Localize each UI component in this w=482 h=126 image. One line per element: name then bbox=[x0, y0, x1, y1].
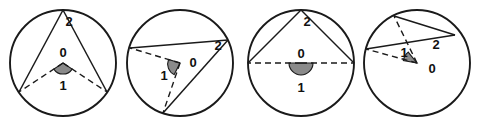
label-center-4: 0 bbox=[428, 61, 435, 76]
circle-diagram-4: 2 0 1 bbox=[356, 0, 482, 126]
label-inscribed-angle-2: 2 bbox=[214, 38, 221, 53]
label-center-2: 0 bbox=[189, 55, 196, 70]
label-central-angle-1: 1 bbox=[59, 78, 66, 93]
label-inscribed-angle-1: 2 bbox=[65, 14, 72, 29]
circle-diagram-2: 2 0 1 bbox=[117, 0, 243, 126]
circle-diagram-3-svg: 2 0 1 bbox=[238, 0, 364, 126]
label-inscribed-angle-4: 2 bbox=[432, 37, 439, 52]
circle-diagram-4-svg: 2 0 1 bbox=[356, 0, 482, 126]
circle-diagram-3: 2 0 1 bbox=[238, 0, 364, 126]
label-center-3: 0 bbox=[297, 46, 304, 61]
label-center-1: 0 bbox=[59, 45, 66, 60]
circle-diagram-row: 2 0 1 2 0 1 bbox=[0, 0, 482, 126]
label-inscribed-angle-3: 2 bbox=[303, 14, 310, 29]
circle-diagram-2-svg: 2 0 1 bbox=[117, 0, 243, 126]
circle-diagram-1-svg: 2 0 1 bbox=[0, 0, 126, 126]
label-central-angle-2: 1 bbox=[160, 68, 167, 83]
label-central-angle-4: 1 bbox=[400, 45, 407, 60]
circle-diagram-1: 2 0 1 bbox=[0, 0, 126, 126]
label-central-angle-3: 1 bbox=[297, 80, 304, 95]
